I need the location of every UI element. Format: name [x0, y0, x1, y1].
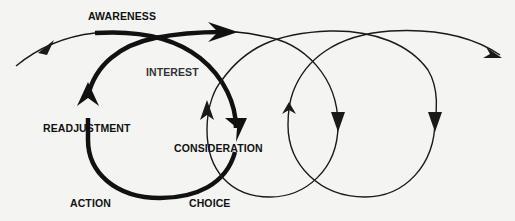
arrowhead-icon: [38, 40, 54, 55]
stage-label-awareness: AWARENESS: [88, 10, 156, 22]
thin-loop-3: [282, 30, 502, 197]
arrowhead-down-icon: [331, 112, 345, 132]
stage-label-readjustment: READJUSTMENT: [43, 122, 131, 134]
exit-arrowhead-icon: [483, 47, 502, 58]
process-spiral-diagram: [0, 0, 515, 221]
arrowhead-up-icon: [200, 100, 214, 120]
stage-label-consideration: CONSIDERATION: [174, 142, 263, 154]
arrowhead-down-icon: [428, 112, 442, 132]
entry-arrow: [16, 33, 95, 66]
stage-label-action: ACTION: [70, 197, 111, 209]
thick-loop: [77, 22, 262, 198]
stage-label-interest: INTEREST: [146, 66, 199, 78]
arrowhead-down-icon: [225, 118, 247, 142]
stage-label-choice: CHOICE: [189, 197, 230, 209]
